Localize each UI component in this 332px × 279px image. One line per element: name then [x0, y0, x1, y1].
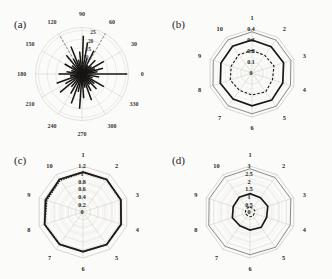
radial-tick-label: 10	[83, 54, 89, 60]
radial-tick-label: 0.4	[78, 194, 86, 200]
panel-c-radial-labels: 00.20.40.60.811.2	[78, 163, 86, 215]
panel-d-radial-labels: 00.511.522.53	[245, 163, 253, 215]
angular-tick-label: 240	[47, 123, 56, 129]
angular-tick-label: 150	[25, 41, 34, 47]
radial-tick-label: 1	[81, 171, 84, 177]
spoke-label-6: 6	[81, 265, 84, 272]
radial-tick-label: 1	[248, 194, 251, 200]
panel-a-plot: 0306090120150180210240270300330 51015202…	[0, 0, 166, 139]
radial-tick-label: 0.3	[247, 37, 255, 43]
radial-tick-label: 0.2	[247, 48, 255, 54]
spoke-label-5: 5	[115, 254, 118, 261]
radial-tick-label: 3	[248, 163, 251, 169]
radial-tick-label: 5	[82, 63, 85, 69]
radial-tick-label: 0	[250, 70, 253, 76]
angular-tick-label: 180	[17, 71, 26, 77]
spoke-label-8: 8	[194, 226, 197, 233]
radial-tick-label: 0.6	[78, 186, 86, 192]
angular-tick-label: 90	[79, 11, 85, 17]
radial-tick-label: 0.8	[78, 179, 86, 185]
spoke-label-8: 8	[27, 226, 30, 233]
radial-tick-label: 15	[86, 46, 92, 52]
spoke-label-4: 4	[136, 226, 140, 233]
spoke-label-7: 7	[215, 254, 218, 261]
panel-c: (c) 12345678910 00.20.40.60.811.2	[0, 140, 166, 279]
radial-tick-label: 2.5	[245, 171, 253, 177]
panel-d-plot: 12345678910 00.511.522.53	[166, 140, 332, 279]
radial-tick-label: 2	[248, 179, 251, 185]
spoke-label-2: 2	[115, 162, 118, 169]
spoke-label-7: 7	[218, 114, 221, 121]
spoke-label-9: 9	[198, 52, 201, 59]
radial-tick-label: 0.1	[247, 59, 255, 65]
radial-tick-label: 1.5	[245, 186, 253, 192]
spoke-label-10: 10	[217, 25, 223, 32]
figure-grid: (a) 0306090120150180210240270300330 5101…	[0, 0, 332, 279]
panel-d: (d) 12345678910 00.511.522.53	[166, 140, 332, 279]
spoke-label-3: 3	[303, 52, 306, 59]
spoke-label-2: 2	[283, 25, 286, 32]
spoke-label-5: 5	[282, 254, 285, 261]
spoke-label-6: 6	[248, 265, 251, 272]
radial-tick-label: 0.5	[245, 202, 253, 208]
spoke-label-8: 8	[198, 86, 201, 93]
panel-b: (b) 12345678910 00.10.20.30.4	[166, 0, 332, 139]
angular-tick-label: 210	[25, 101, 34, 107]
spoke-label-1: 1	[248, 151, 251, 158]
radial-tick-label: 25	[90, 29, 96, 35]
radial-tick-label: 0.2	[78, 202, 86, 208]
angular-tick-label: 300	[108, 123, 117, 129]
spoke-label-3: 3	[303, 191, 306, 198]
spoke-label-3: 3	[136, 191, 139, 198]
spoke-label-6: 6	[250, 124, 253, 131]
spoke-label-5: 5	[283, 114, 286, 121]
spoke-label-1: 1	[250, 14, 253, 21]
radial-tick-label: 0.4	[247, 26, 255, 32]
angular-tick-label: 30	[131, 41, 137, 47]
angular-tick-label: 270	[78, 131, 87, 137]
angular-tick-label: 120	[47, 19, 56, 25]
spoke-label-4: 4	[303, 226, 307, 233]
spoke-label-1: 1	[81, 151, 84, 158]
spoke-label-9: 9	[194, 191, 197, 198]
radial-tick-label: 0	[81, 209, 84, 215]
spoke-label-9: 9	[27, 191, 30, 198]
spoke-label-7: 7	[48, 254, 51, 261]
panel-c-plot: 12345678910 00.20.40.60.811.2	[0, 140, 166, 279]
radial-tick-label: 20	[88, 38, 94, 44]
angular-tick-label: 0	[141, 71, 144, 77]
spoke-label-10: 10	[213, 162, 219, 169]
spoke-label-10: 10	[46, 162, 52, 169]
angular-tick-label: 330	[130, 101, 139, 107]
radial-tick-label: 1.2	[78, 163, 86, 169]
panel-a: (a) 0306090120150180210240270300330 5101…	[0, 0, 166, 139]
spoke-label-4: 4	[303, 86, 307, 93]
panel-b-plot: 12345678910 00.10.20.30.4	[166, 0, 332, 139]
spoke-label-2: 2	[282, 162, 285, 169]
radial-tick-label: 0	[248, 209, 251, 215]
angular-tick-label: 60	[109, 19, 115, 25]
